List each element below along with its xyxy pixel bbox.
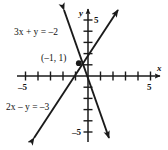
graph-svg: 3x + y = –2 2x – y = –3 (–1, 1) x y –5 5…: [0, 0, 168, 150]
intersection-point-marker: [76, 60, 82, 66]
y-axis-max-tick-label: 5: [94, 15, 99, 25]
y-axis-min-tick-label: –5: [71, 127, 82, 137]
x-axis-min-tick-label: –5: [17, 82, 28, 92]
line-3x-plus-y-equals-neg2: [64, 10, 109, 138]
y-axis-label: y: [78, 8, 84, 18]
equation-1-label: 3x + y = –2: [14, 27, 58, 37]
intersection-point-label: (–1, 1): [41, 53, 66, 64]
coordinate-graph-figure: 3x + y = –2 2x – y = –3 (–1, 1) x y –5 5…: [0, 0, 168, 150]
x-axis-label: x: [156, 63, 162, 73]
x-axis-max-tick-label: 5: [147, 82, 152, 92]
equation-2-label: 2x – y = –3: [6, 102, 50, 112]
